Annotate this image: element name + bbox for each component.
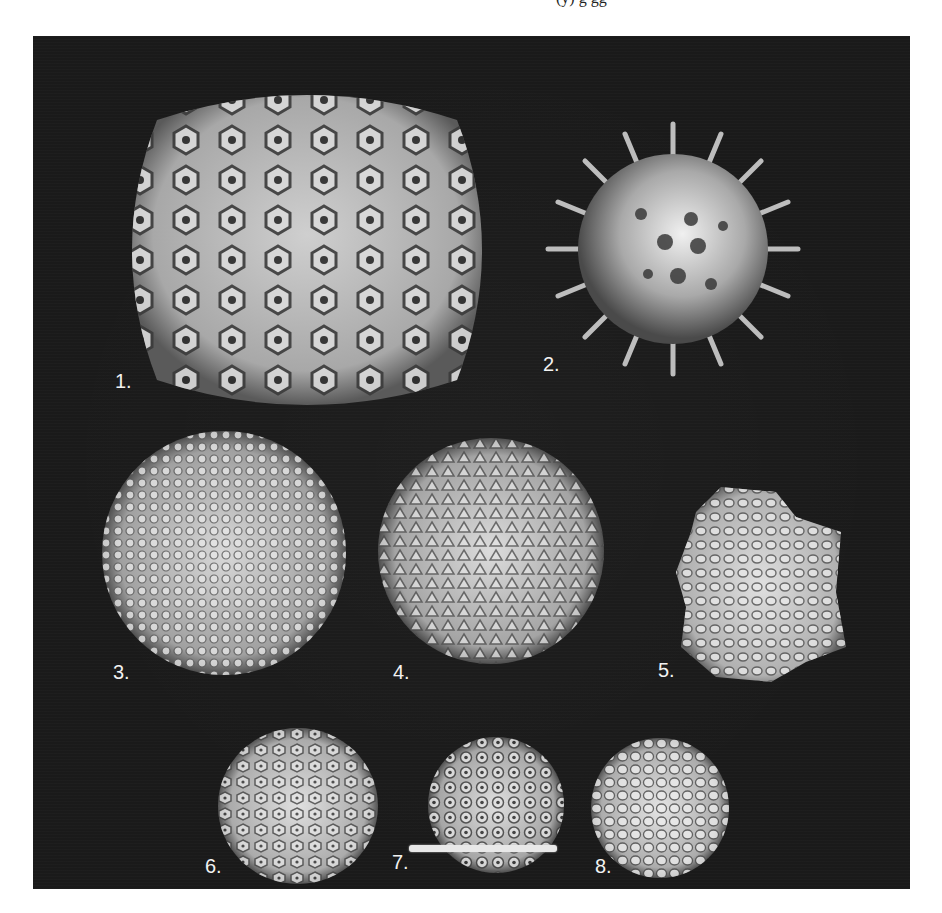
virus-panel-7	[426, 735, 566, 875]
panel-label-1: 1.	[115, 371, 132, 391]
panel-label-2: 2.	[543, 354, 560, 374]
virus-1-image	[117, 80, 497, 420]
virus-4-image	[376, 436, 606, 666]
scale-bar	[409, 845, 557, 852]
virus-panel-4	[376, 436, 606, 666]
figure-plate: 1.	[33, 36, 910, 889]
panel-label-8: 8.	[595, 856, 612, 876]
panel-label-7: 7.	[392, 852, 409, 872]
virus-panel-6	[216, 726, 381, 886]
virus-7-image	[426, 735, 566, 875]
virus-panel-2	[533, 114, 813, 384]
panel-label-5: 5.	[658, 660, 675, 680]
panel-label-6: 6.	[205, 856, 222, 876]
virus-2-image	[533, 114, 813, 384]
virus-3-image	[100, 429, 348, 677]
clipped-text-fragment: (y) g gg	[556, 0, 607, 6]
panel-label-3: 3.	[113, 662, 130, 682]
virus-panel-3	[100, 429, 348, 677]
clipped-page-text-top: (y) g gg	[0, 0, 942, 8]
virus-6-image	[216, 726, 381, 886]
virus-panel-5	[666, 482, 851, 687]
virus-5-image	[666, 482, 851, 687]
virus-panel-1	[117, 80, 497, 420]
panel-label-4: 4.	[393, 662, 410, 682]
